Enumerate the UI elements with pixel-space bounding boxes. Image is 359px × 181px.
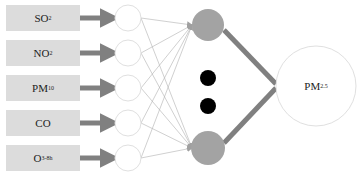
input-box-so2: SO2 <box>6 5 80 31</box>
input-label: SO <box>34 12 48 24</box>
input-node <box>115 5 141 31</box>
output-arrows <box>224 30 276 143</box>
input-node <box>115 145 141 171</box>
hidden-to-output-arrow <box>224 88 276 143</box>
input-box-co: CO <box>6 110 80 136</box>
input-layer-nodes <box>115 5 141 171</box>
connections <box>141 18 192 158</box>
input-label-sub: 2 <box>49 50 52 56</box>
input-node <box>115 75 141 101</box>
input-arrows <box>80 18 112 158</box>
input-label: O <box>34 152 42 164</box>
input-label: PM <box>32 82 48 94</box>
hidden-to-output-arrow <box>224 30 276 84</box>
input-label-sub: 2 <box>49 15 52 21</box>
hidden-node-top <box>192 9 224 41</box>
ellipsis-dot <box>200 70 216 86</box>
input-node <box>115 40 141 66</box>
input-box-no2: NO2 <box>6 40 80 66</box>
input-box-o3: O3-8h <box>6 145 80 171</box>
output-label: PM2.5 <box>276 76 356 96</box>
input-label-sub: 10 <box>48 85 54 91</box>
hidden-node-bottom <box>191 131 225 165</box>
ellipsis-dot <box>200 98 216 114</box>
input-label-sub: 3-8h <box>41 155 52 161</box>
output-label-base: PM <box>304 80 320 92</box>
input-label: CO <box>35 117 50 129</box>
output-label-sub: 2.5 <box>320 83 328 89</box>
input-label: NO <box>34 47 50 59</box>
input-box-pm10: PM10 <box>6 75 80 101</box>
input-node <box>115 110 141 136</box>
